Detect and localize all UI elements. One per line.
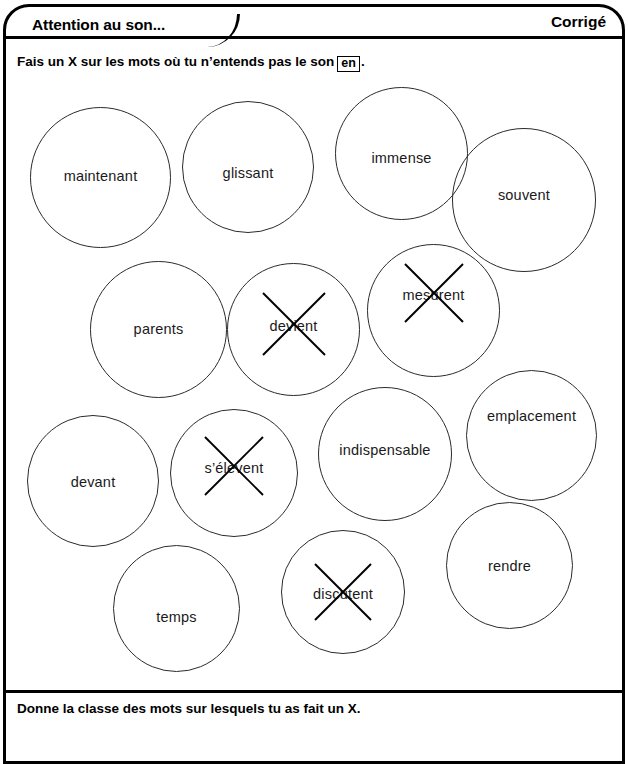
word-bubble[interactable]: s’élèvent bbox=[170, 409, 298, 537]
footer-divider bbox=[6, 690, 622, 693]
corrige-label: Corrigé bbox=[551, 13, 606, 31]
bubble-word-label: devant bbox=[71, 474, 116, 490]
word-bubble[interactable]: souvent bbox=[452, 128, 596, 272]
word-bubble[interactable]: glissant bbox=[182, 101, 314, 233]
word-bubble[interactable]: devant bbox=[27, 415, 159, 547]
bubble-word-label: mesurent bbox=[402, 287, 464, 303]
bubble-word-label: devient bbox=[269, 318, 317, 334]
bubble-word-label: rendre bbox=[488, 558, 531, 574]
word-bubble[interactable]: temps bbox=[113, 545, 240, 672]
word-bubble[interactable]: parents bbox=[90, 261, 227, 398]
word-bubble[interactable]: discutent bbox=[281, 530, 405, 654]
bubble-word-label: emplacement bbox=[487, 408, 576, 424]
header-divider bbox=[6, 36, 622, 39]
word-bubble[interactable]: rendre bbox=[446, 502, 573, 629]
bubble-word-label: temps bbox=[156, 609, 197, 625]
word-bubble[interactable]: immense bbox=[335, 87, 468, 220]
word-bubble[interactable]: mesurent bbox=[367, 244, 500, 377]
header: Attention au son... Corrigé bbox=[3, 4, 625, 39]
instruction-line: Fais un X sur les mots où tu n’entends p… bbox=[17, 54, 365, 71]
title-tab: Attention au son... bbox=[16, 11, 195, 38]
bubble-word-label: immense bbox=[371, 150, 431, 166]
instruction-text-after: . bbox=[361, 54, 365, 69]
bubble-word-label: maintenant bbox=[64, 168, 138, 184]
sound-box: en bbox=[337, 56, 360, 72]
word-bubble[interactable]: indispensable bbox=[318, 387, 452, 521]
bubble-word-label: glissant bbox=[223, 165, 274, 181]
word-bubble[interactable]: maintenant bbox=[30, 107, 171, 248]
page-title: Attention au son... bbox=[32, 16, 165, 34]
bubble-word-label: discutent bbox=[313, 586, 373, 602]
bubble-word-label: parents bbox=[134, 321, 184, 337]
word-bubble[interactable]: devient bbox=[227, 263, 360, 396]
instruction-text-before: Fais un X sur les mots où tu n’entends p… bbox=[17, 54, 334, 69]
footer-instruction: Donne la classe des mots sur lesquels tu… bbox=[17, 701, 361, 716]
bubble-word-label: s’élèvent bbox=[204, 460, 263, 476]
bubble-word-label: indispensable bbox=[339, 442, 430, 458]
word-bubble[interactable]: emplacement bbox=[466, 370, 597, 501]
bubble-word-label: souvent bbox=[498, 187, 550, 203]
